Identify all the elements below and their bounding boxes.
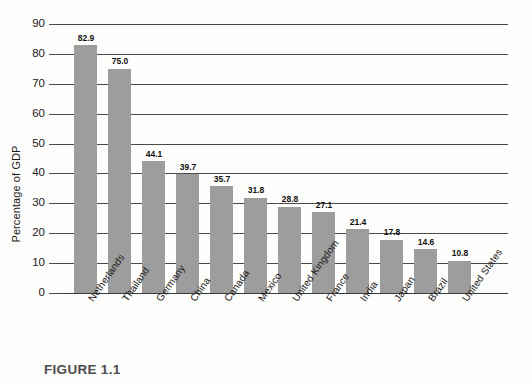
bar-group: 10.8 xyxy=(443,24,477,293)
y-axis-tick xyxy=(49,173,62,174)
figure-caption: FIGURE 1.1 xyxy=(44,362,121,377)
bar-value-label: 28.8 xyxy=(273,195,307,204)
y-axis-tick-label: 90 xyxy=(15,18,45,30)
figure-container: Percentage of GDP 0102030405060708090 82… xyxy=(0,0,532,387)
bar-value-label: 82.9 xyxy=(69,34,103,43)
bar-value-label: 27.1 xyxy=(307,201,341,210)
y-axis-tick xyxy=(49,263,62,264)
bar-group: 31.8 xyxy=(239,24,273,293)
bar-group: 17.8 xyxy=(375,24,409,293)
bar-group: 35.7 xyxy=(205,24,239,293)
bar-value-label: 31.8 xyxy=(239,186,273,195)
bar xyxy=(278,207,301,293)
y-axis-tick xyxy=(49,203,62,204)
y-axis-tick xyxy=(49,293,62,294)
y-axis-tick xyxy=(49,233,62,234)
y-axis-tick-label: 60 xyxy=(15,108,45,120)
bar-group: 14.6 xyxy=(409,24,443,293)
bar-group: 28.8 xyxy=(273,24,307,293)
bar-value-label: 17.8 xyxy=(375,228,409,237)
bar-value-label: 75.0 xyxy=(103,57,137,66)
bar-value-label: 35.7 xyxy=(205,175,239,184)
y-axis-tick xyxy=(49,54,62,55)
bar-group: 39.7 xyxy=(171,24,205,293)
y-axis-tick-label: 0 xyxy=(15,287,45,299)
y-axis-tick-label: 70 xyxy=(15,78,45,90)
bar xyxy=(210,186,233,293)
bar xyxy=(346,229,369,293)
bar-value-label: 39.7 xyxy=(171,163,205,172)
y-axis-title: Percentage of GDP xyxy=(10,145,22,242)
bar-group: 44.1 xyxy=(137,24,171,293)
bar-value-label: 14.6 xyxy=(409,238,443,247)
y-axis-tick-label: 80 xyxy=(15,48,45,60)
bar-group: 21.4 xyxy=(341,24,375,293)
y-axis-tick-label: 10 xyxy=(15,257,45,269)
y-axis-tick xyxy=(49,144,62,145)
plot-area: 82.975.044.139.735.731.828.827.121.417.8… xyxy=(62,24,508,293)
y-axis-tick xyxy=(49,114,62,115)
bar xyxy=(74,45,97,293)
bar-value-label: 21.4 xyxy=(341,218,375,227)
bar-value-label: 44.1 xyxy=(137,150,171,159)
bar-value-label: 10.8 xyxy=(443,249,477,258)
y-axis-tick xyxy=(49,24,62,25)
bar-group: 82.9 xyxy=(69,24,103,293)
y-axis-tick xyxy=(49,84,62,85)
